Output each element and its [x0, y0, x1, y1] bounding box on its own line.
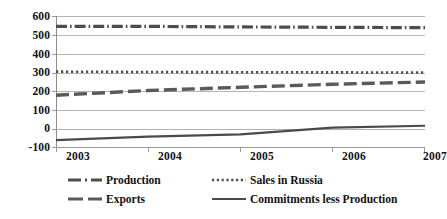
x-tick-label-2005: 2005 — [250, 150, 274, 162]
x-tick-label-2004: 2004 — [158, 150, 182, 162]
x-tick-label-2003: 2003 — [66, 150, 90, 162]
y-tick-label-100: 100 — [6, 105, 50, 116]
legend-label-sales-in-russia: Sales in Russia — [250, 174, 323, 186]
series-line-exports — [56, 82, 425, 95]
page-edge — [0, 218, 431, 219]
x-tick-label-2007: 2007 — [423, 150, 447, 162]
x-tick-label-2006: 2006 — [342, 150, 366, 162]
y-tick-label-0: 0 — [6, 123, 50, 134]
series-line-sales-in-russia — [56, 72, 425, 73]
legend-label-exports: Exports — [106, 193, 145, 205]
legend-label-production: Production — [106, 174, 161, 186]
y-tick-label-300: 300 — [6, 67, 50, 78]
plot-area — [56, 16, 425, 148]
legend-label-commitments-less-production: Commitments less Production — [250, 193, 397, 205]
y-axis-tick-labels: 600 500 400 300 200 100 0 -100 — [4, 16, 50, 148]
series-container — [56, 16, 425, 148]
y-tick-label-600: 600 — [6, 11, 50, 22]
y-tick-label-200: 200 — [6, 86, 50, 97]
legend-swatch-dotted-icon — [212, 175, 246, 185]
series-line-production — [56, 26, 425, 27]
legend-item-commitments-less-production[interactable]: Commitments less Production — [212, 193, 397, 205]
x-axis-tick-labels: 2003 2004 2005 2006 2007 — [56, 150, 425, 166]
legend-item-exports[interactable]: Exports — [68, 193, 145, 205]
legend-swatch-dashed-icon — [68, 194, 102, 204]
legend-item-production[interactable]: Production — [68, 174, 161, 186]
legend-swatch-solid-icon — [212, 194, 246, 204]
y-tick-label-neg100: -100 — [6, 142, 50, 153]
y-tick-label-400: 400 — [6, 49, 50, 60]
chart-legend: Production Exports Sales in Russia — [0, 172, 431, 216]
series-line-commitments-less-production — [56, 126, 425, 140]
legend-swatch-dash-dot-icon — [68, 175, 102, 185]
legend-item-sales-in-russia[interactable]: Sales in Russia — [212, 174, 323, 186]
y-tick-label-500: 500 — [6, 30, 50, 41]
